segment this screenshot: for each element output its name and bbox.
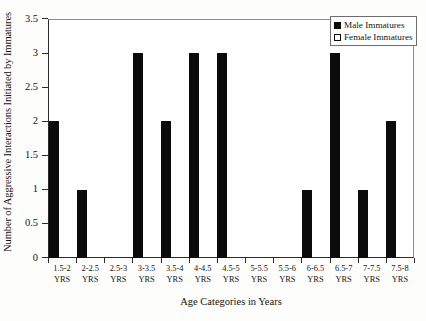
x-tick bbox=[161, 258, 162, 263]
y-tick-label: 0 bbox=[0, 253, 38, 263]
open-square-icon bbox=[334, 34, 341, 41]
y-tick-label: 2.5 bbox=[0, 82, 38, 92]
x-tick bbox=[414, 258, 415, 263]
y-tick bbox=[42, 189, 48, 190]
x-tick bbox=[386, 258, 387, 263]
x-tick bbox=[330, 258, 331, 263]
bar bbox=[49, 121, 59, 258]
y-tick-label: 1 bbox=[0, 184, 38, 194]
y-tick bbox=[42, 18, 48, 19]
y-tick-label: 3.5 bbox=[0, 14, 38, 24]
x-tick bbox=[104, 258, 105, 263]
bar-chart-figure: Number of Aggressive Interactions Initia… bbox=[0, 0, 426, 321]
legend-label-female: Female Immatures bbox=[344, 32, 413, 43]
legend-label-male: Male Immatures bbox=[344, 20, 404, 31]
x-tick bbox=[217, 258, 218, 263]
x-tick bbox=[189, 258, 190, 263]
filled-square-icon bbox=[334, 22, 341, 29]
x-tick bbox=[301, 258, 302, 263]
y-tick-label: 1.5 bbox=[0, 150, 38, 160]
x-tick-label: 7.5-8YRS bbox=[380, 264, 420, 285]
bar bbox=[358, 190, 368, 258]
bar bbox=[77, 190, 87, 258]
bar bbox=[302, 190, 312, 258]
bar bbox=[189, 53, 199, 258]
y-tick-label: 0.5 bbox=[0, 218, 38, 228]
y-tick bbox=[42, 155, 48, 156]
y-tick bbox=[42, 53, 48, 54]
legend-item-female: Female Immatures bbox=[334, 31, 413, 43]
x-tick bbox=[76, 258, 77, 263]
x-tick bbox=[48, 258, 49, 263]
x-tick bbox=[358, 258, 359, 263]
y-tick-label: 2 bbox=[0, 116, 38, 126]
x-tick bbox=[273, 258, 274, 263]
bar bbox=[133, 53, 143, 258]
y-tick-label: 3 bbox=[0, 48, 38, 58]
bar bbox=[330, 53, 340, 258]
chart-legend: Male Immatures Female Immatures bbox=[330, 16, 417, 46]
y-tick bbox=[42, 223, 48, 224]
x-axis-title: Age Categories in Years bbox=[48, 296, 414, 307]
legend-item-male: Male Immatures bbox=[334, 19, 413, 31]
y-tick bbox=[42, 87, 48, 88]
bar bbox=[161, 121, 171, 258]
bar bbox=[217, 53, 227, 258]
y-tick bbox=[42, 121, 48, 122]
x-tick bbox=[132, 258, 133, 263]
bar bbox=[386, 121, 396, 258]
x-tick bbox=[245, 258, 246, 263]
